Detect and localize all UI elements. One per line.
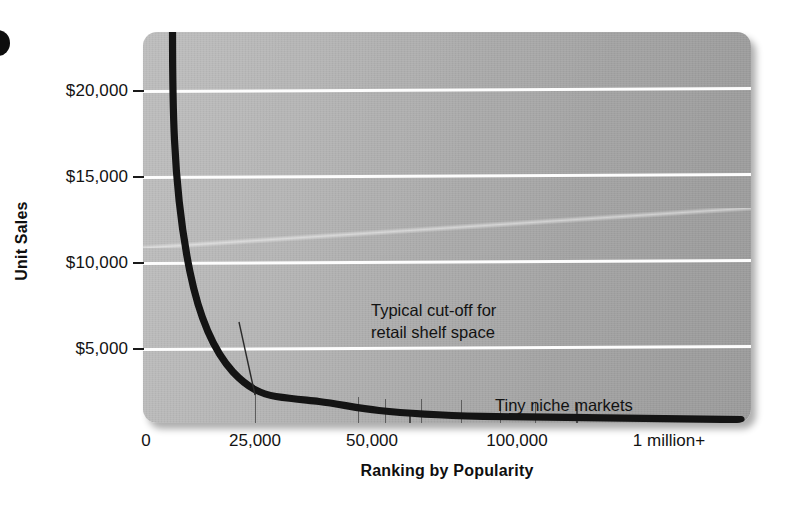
ytick-label-20000: $20,000 xyxy=(8,81,128,101)
xtick-label-25000: 25,000 xyxy=(229,431,281,451)
ytick-label-5000: $5,000 xyxy=(8,339,128,359)
annotation-tiny-niche: Tiny niche markets xyxy=(495,395,633,417)
xtick-label-0: 0 xyxy=(141,431,150,451)
long-tail-chart: Typical cut-off for retail shelf space T… xyxy=(0,0,806,514)
ytick-mark-20000 xyxy=(133,90,144,92)
xtick-label-50000: 50,000 xyxy=(346,431,398,451)
y-axis-title: Unit Sales xyxy=(13,176,31,306)
cutoff-leader-line xyxy=(143,32,751,423)
plot-area: Typical cut-off for retail shelf space T… xyxy=(143,32,751,423)
xtick-label-100000: 100,000 xyxy=(486,431,547,451)
x-axis-title: Ranking by Popularity xyxy=(143,462,751,480)
ytick-mark-10000 xyxy=(133,262,144,264)
ytick-mark-5000 xyxy=(133,348,144,350)
xtick-label-1million: 1 million+ xyxy=(633,431,705,451)
ytick-mark-15000 xyxy=(133,176,144,178)
annotation-retail-cutoff: Typical cut-off for retail shelf space xyxy=(371,300,496,344)
